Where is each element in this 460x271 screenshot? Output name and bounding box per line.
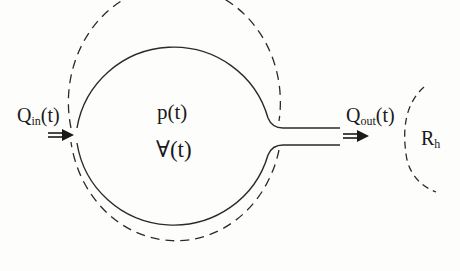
inflow-arrow-icon	[48, 129, 74, 141]
outflow-label: Qout(t)	[346, 105, 395, 127]
volume-label: ∀(t)	[156, 138, 192, 161]
outflow-arrow-icon	[343, 130, 369, 142]
resistance-label: Rh	[421, 128, 440, 150]
chamber-solid-outline	[77, 47, 340, 128]
chamber-solid-outline-lower	[77, 143, 340, 225]
chamber-diagram: Qin(t) p(t) ∀(t) Qout(t) Rh	[0, 0, 460, 271]
pressure-label: p(t)	[157, 102, 187, 123]
inflow-label: Qin(t)	[17, 105, 60, 127]
diagram-graphics	[0, 0, 460, 271]
